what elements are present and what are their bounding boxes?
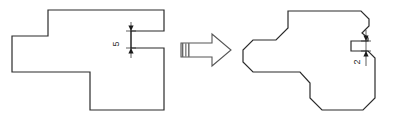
technical-drawing-svg: 5 2 — [0, 0, 407, 123]
right-dimension-value: 2 — [352, 59, 362, 64]
drawing-canvas: 5 2 — [0, 0, 407, 123]
left-figure-group: 5 — [12, 10, 164, 110]
right-dimension-arrow-bottom — [363, 51, 368, 57]
left-dimension-arrow-bottom — [128, 48, 133, 54]
original-profile-outline — [12, 10, 164, 110]
left-dimension-value: 5 — [111, 41, 121, 46]
transform-arrow-group — [181, 34, 231, 66]
left-dimension-arrow-top — [128, 26, 133, 32]
right-figure-group: 2 — [243, 11, 375, 110]
